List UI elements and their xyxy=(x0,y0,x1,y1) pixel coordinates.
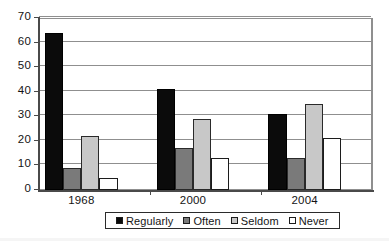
legend-swatch-icon xyxy=(183,217,190,224)
x-axis-labels: 196820002004 xyxy=(38,193,373,211)
legend-item[interactable]: Never xyxy=(289,215,329,227)
legend-item[interactable]: Seldom xyxy=(231,215,279,227)
bar xyxy=(99,178,117,190)
bar-chart: 010203040506070 196820002004 RegularlyOf… xyxy=(0,0,389,244)
legend-label: Often xyxy=(193,215,220,227)
gridline xyxy=(39,16,371,17)
bar xyxy=(287,158,305,190)
y-axis-tick-label: 30 xyxy=(18,108,31,120)
legend: RegularlyOftenSeldomNever xyxy=(105,212,340,229)
bar xyxy=(81,136,99,190)
legend-label: Regularly xyxy=(126,215,173,227)
legend-swatch-icon xyxy=(289,217,296,224)
legend-label: Seldom xyxy=(241,215,279,227)
x-axis-label: 2000 xyxy=(137,193,250,207)
x-axis-line xyxy=(38,190,374,192)
y-axis-tick-label: 20 xyxy=(18,133,31,145)
bar xyxy=(45,33,63,190)
bar xyxy=(175,148,193,190)
y-axis-tick-label: 70 xyxy=(18,10,31,22)
x-axis-label: 1968 xyxy=(25,193,138,207)
legend-label: Never xyxy=(299,215,329,227)
bars-layer xyxy=(38,18,373,190)
y-axis-ticks: 010203040506070 xyxy=(0,18,38,190)
y-axis-tick-label: 50 xyxy=(18,59,31,71)
y-axis-tick-label: 40 xyxy=(18,84,31,96)
legend-item[interactable]: Often xyxy=(183,215,220,227)
y-axis-tick-label: 60 xyxy=(18,35,31,47)
bar xyxy=(305,104,323,190)
bar xyxy=(323,138,341,190)
bar xyxy=(63,168,81,190)
y-axis-tick-label: 10 xyxy=(18,157,31,169)
legend-swatch-icon xyxy=(116,217,123,224)
bar xyxy=(211,158,229,190)
bar xyxy=(157,89,175,190)
legend-item[interactable]: Regularly xyxy=(116,215,173,227)
bar xyxy=(268,114,286,190)
x-axis-label: 2004 xyxy=(248,193,361,207)
legend-swatch-icon xyxy=(231,217,238,224)
scan-artifact xyxy=(0,238,389,241)
bar xyxy=(193,119,211,190)
